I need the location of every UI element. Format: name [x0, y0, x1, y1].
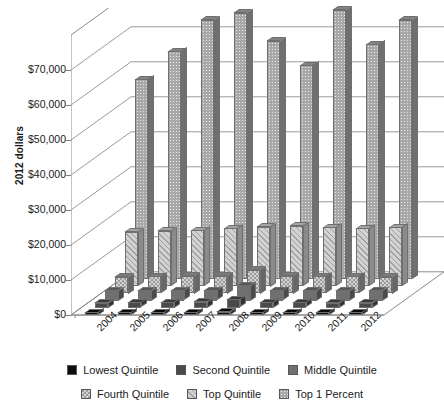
bar-side-face: [204, 226, 210, 286]
y-axis-tick-labels: $0$10,000$20,000$30,000$40,000$50,000$60…: [0, 0, 66, 320]
bar-side-face: [247, 9, 253, 279]
legend-item[interactable]: Middle Quintile: [288, 364, 377, 376]
bar-lowest-quintile-2012: [349, 309, 368, 315]
bar-lowest-quintile-2007: [184, 309, 203, 315]
legend-swatch-second-quintile-icon: [176, 365, 186, 375]
bar-second-quintile-2008: [227, 296, 246, 308]
bar-side-face: [214, 16, 220, 279]
legend-item[interactable]: Fourth Quintile: [81, 388, 169, 400]
bar-front-face: [85, 312, 98, 315]
legend-label: Top 1 Percent: [295, 388, 363, 400]
bar-front-face: [250, 312, 263, 315]
bar-side-face: [313, 62, 319, 279]
bar-side-face: [227, 272, 233, 294]
bar-second-quintile-2005: [128, 299, 147, 308]
bar-lowest-quintile-2004: [85, 309, 104, 315]
y-axis-tick-label: $40,000: [2, 169, 66, 179]
y-axis-tick-label: $10,000: [2, 274, 66, 284]
bar-front-face: [349, 312, 362, 315]
bar-side-face: [280, 37, 286, 279]
bar-side-face: [148, 76, 154, 279]
legend-label: Fourth Quintile: [97, 388, 169, 400]
bar-front-face: [260, 302, 273, 308]
legend-item[interactable]: Top 1 Percent: [279, 388, 363, 400]
bar-side-face: [346, 6, 352, 279]
bar-front-face: [283, 312, 296, 315]
bar-front-face: [194, 302, 207, 308]
bar-lowest-quintile-2011: [316, 309, 335, 315]
bar-front-face: [95, 303, 108, 308]
y-axis-tick-label: $60,000: [2, 99, 66, 109]
legend-item[interactable]: Second Quintile: [176, 364, 270, 376]
bar-lowest-quintile-2008: [217, 308, 236, 315]
bar-lowest-quintile-2009: [250, 309, 269, 315]
bar-front-face: [227, 299, 240, 307]
bar-second-quintile-2004: [95, 299, 114, 308]
bar-second-quintile-2009: [260, 299, 279, 308]
y-axis-tick-label: $0: [2, 309, 66, 319]
legend-label: Second Quintile: [192, 364, 270, 376]
bar-second-quintile-2006: [161, 299, 180, 308]
bar-side-face: [392, 273, 398, 294]
bar-side-face: [141, 299, 147, 308]
legend-item[interactable]: Lowest Quintile: [67, 364, 158, 376]
bar-side-face: [273, 298, 279, 307]
bar-second-quintile-2012: [359, 299, 378, 308]
y-axis-tick-label: $20,000: [2, 239, 66, 249]
bar-lowest-quintile-2005: [118, 309, 137, 315]
bar-side-face: [174, 298, 180, 307]
y-axis-tick-label: $30,000: [2, 204, 66, 214]
bar-front-face: [161, 302, 174, 308]
bar-front-face: [128, 302, 141, 307]
bar-side-face: [379, 41, 385, 279]
bar-lowest-quintile-2006: [151, 309, 170, 315]
bar-front-face: [184, 312, 197, 315]
bar-side-face: [118, 287, 124, 301]
bar-side-face: [194, 272, 200, 293]
legend-row: Lowest QuintileSecond QuintileMiddle Qui…: [0, 358, 444, 382]
bar-side-face: [359, 273, 365, 294]
legend-row: Fourth QuintileTop QuintileTop 1 Percent: [0, 382, 444, 406]
chart-legend: Lowest QuintileSecond QuintileMiddle Qui…: [0, 358, 444, 406]
bar-front-face: [316, 312, 329, 315]
bar-side-face: [412, 16, 418, 279]
bar-front-face: [118, 312, 131, 315]
legend-swatch-middle-quintile-icon: [288, 365, 298, 375]
bar-lowest-quintile-2010: [283, 309, 302, 315]
bar-side-face: [270, 223, 276, 286]
bar-side-face: [181, 48, 187, 279]
legend-label: Lowest Quintile: [83, 364, 158, 376]
bar-side-face: [237, 225, 243, 286]
legend-label: Middle Quintile: [304, 364, 377, 376]
bar-side-face: [184, 287, 190, 301]
bar-front-face: [293, 302, 306, 307]
bar-side-face: [171, 227, 177, 286]
bar-chart-3d: 2012 dollars $0$10,000$20,000$30,000$40,…: [0, 0, 444, 411]
bar-side-face: [349, 287, 355, 301]
bar-side-face: [306, 299, 312, 308]
y-axis-tick-label: $50,000: [2, 134, 66, 144]
legend-swatch-top-quintile-icon: [187, 389, 197, 399]
bar-second-quintile-2010: [293, 299, 312, 308]
bar-side-face: [217, 287, 223, 301]
plot-area: [71, 8, 444, 318]
bar-side-face: [250, 282, 256, 300]
legend-label: Top Quintile: [203, 388, 261, 400]
legend-item[interactable]: Top Quintile: [187, 388, 261, 400]
bar-side-face: [283, 287, 289, 301]
y-axis-tick-label: $70,000: [2, 64, 66, 74]
bar-side-face: [260, 266, 266, 294]
bar-second-quintile-2007: [194, 298, 213, 307]
bar-side-face: [336, 224, 342, 287]
bar-front-face: [359, 303, 372, 308]
bar-side-face: [369, 225, 375, 286]
bar-side-face: [303, 222, 309, 286]
bar-second-quintile-2011: [326, 299, 345, 308]
bars-layer: [71, 8, 444, 318]
bar-side-face: [128, 273, 134, 294]
bar-side-face: [161, 273, 167, 294]
bar-front-face: [151, 312, 164, 315]
legend-swatch-lowest-quintile-icon: [67, 365, 77, 375]
bar-side-face: [326, 273, 332, 294]
bar-side-face: [382, 287, 388, 301]
